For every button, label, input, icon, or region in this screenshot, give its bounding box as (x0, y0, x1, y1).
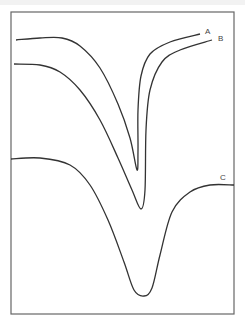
curve-label-b: B (218, 34, 223, 43)
curve-a (16, 34, 200, 170)
curve-b (14, 40, 212, 209)
absorption-curves-chart: A B C (0, 0, 245, 324)
plot-frame (11, 12, 234, 314)
curve-c (11, 158, 234, 296)
curve-label-a: A (205, 27, 211, 36)
curve-label-c: C (220, 173, 226, 182)
